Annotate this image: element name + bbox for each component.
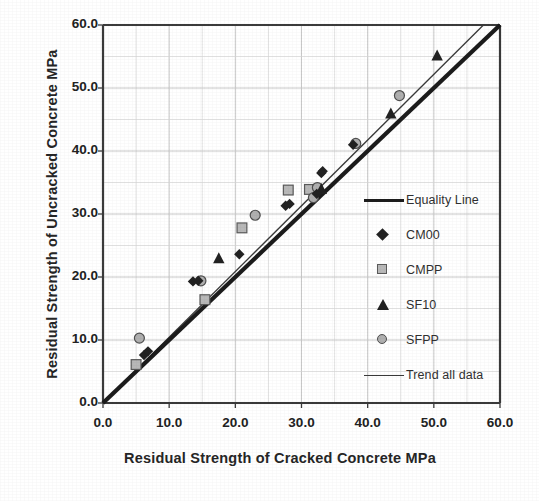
legend-item-label: Equality Line (406, 193, 479, 207)
legend-marker-line-thin-icon (362, 365, 406, 385)
legend-marker-triangle-icon (362, 295, 406, 315)
legend-item-cmpp[interactable]: CMPP (362, 252, 502, 287)
legend-marker-square-icon (362, 260, 406, 280)
legend-item-label: SFPP (406, 333, 439, 347)
legend-swatch-shape (377, 334, 387, 344)
legend-item-label: CMPP (406, 263, 443, 277)
data-point-circle (394, 91, 404, 101)
legend-swatch-shape (377, 299, 389, 310)
legend-item-equality-line[interactable]: Equality Line (362, 182, 502, 217)
legend-swatch-shape (364, 199, 404, 202)
data-point-square (131, 360, 141, 370)
legend-swatch-shape (376, 228, 389, 241)
data-point-circle (134, 333, 144, 343)
data-point-square (283, 185, 293, 195)
legend-swatch-shape (364, 375, 404, 376)
data-point-circle (250, 210, 260, 220)
legend-item-sfpp[interactable]: SFPP (362, 322, 502, 357)
series-cm00 (139, 140, 358, 361)
legend-item-sf10[interactable]: SF10 (362, 287, 502, 322)
legend-item-label: CM00 (406, 228, 440, 242)
legend-item-label: SF10 (406, 298, 436, 312)
legend-item-cm00[interactable]: CM00 (362, 217, 502, 252)
legend-swatch-shape (377, 264, 387, 274)
data-point-square (200, 295, 210, 305)
chart-legend: Equality LineCM00CMPPSF10SFPPTrend all d… (362, 182, 502, 392)
scatter-chart-figure: Residual Strength of Uncracked Concrete … (0, 0, 539, 501)
legend-item-trend-all-data[interactable]: Trend all data (362, 357, 502, 392)
legend-marker-line-thick-icon (362, 190, 406, 210)
legend-marker-diamond-icon (362, 225, 406, 245)
legend-item-label: Trend all data (406, 368, 483, 382)
data-point-triangle (431, 49, 442, 60)
legend-marker-circle-icon (362, 330, 406, 350)
data-point-square (237, 223, 247, 233)
data-point-triangle (213, 252, 224, 263)
